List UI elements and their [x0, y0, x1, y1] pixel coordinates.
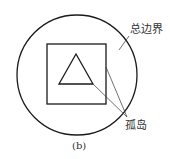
figure-caption: (b)	[72, 141, 86, 151]
outer-boundary-circle	[17, 15, 137, 135]
island-triangle	[59, 54, 93, 84]
island-label: 孤岛	[125, 120, 147, 131]
island-leader-line-square	[106, 67, 127, 117]
outer-boundary-label: 总边界	[130, 24, 163, 35]
island-square	[47, 44, 106, 104]
island-leader-line-triangle	[93, 84, 127, 117]
